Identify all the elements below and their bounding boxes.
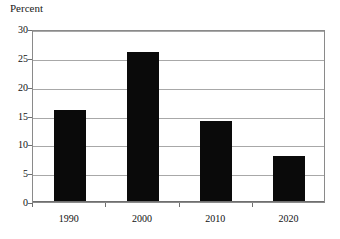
y-axis-tick-marks: [0, 30, 34, 203]
bar: [127, 52, 159, 202]
bar: [273, 156, 305, 202]
baseline-axis: [33, 201, 324, 202]
x-axis-tick-label: 2000: [112, 213, 172, 225]
y-axis-title: Percent: [10, 2, 43, 15]
bar: [200, 121, 232, 202]
x-axis-tick-label: 2010: [185, 213, 245, 225]
x-axis-tick-mark: [105, 203, 106, 207]
x-axis-tick-label: 2020: [258, 213, 318, 225]
bars-layer: [33, 31, 324, 202]
x-axis-tick-label: 1990: [39, 213, 99, 225]
bar-chart: Percent 051015202530 1990200020102020: [0, 0, 340, 239]
plot-area: [32, 30, 325, 203]
x-axis-tick-mark: [32, 203, 33, 207]
bar: [54, 110, 86, 202]
x-axis-tick-mark: [179, 203, 180, 207]
x-axis-tick-mark: [252, 203, 253, 207]
x-axis: 1990200020102020: [32, 203, 325, 239]
